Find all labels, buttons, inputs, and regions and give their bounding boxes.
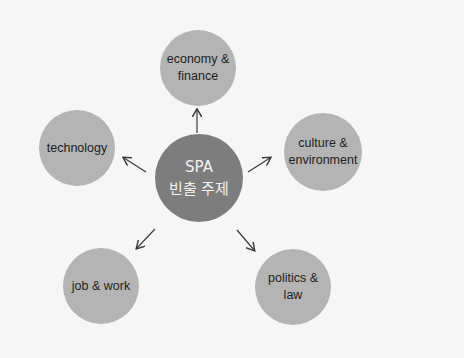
arrow-to-culture bbox=[248, 158, 270, 172]
node-label: finance bbox=[178, 68, 218, 85]
node-job-work: job & work bbox=[63, 248, 139, 324]
node-label: job & work bbox=[72, 278, 130, 295]
node-culture-environment: culture & environment bbox=[284, 113, 362, 191]
center-title: SPA bbox=[185, 156, 213, 178]
arrow-to-technology bbox=[124, 158, 146, 172]
arrow-to-politics bbox=[237, 230, 254, 250]
node-label: politics & bbox=[268, 270, 318, 287]
node-economy-finance: economy & finance bbox=[160, 30, 236, 106]
center-subtitle: 빈출 주제 bbox=[169, 178, 230, 200]
node-label: economy & bbox=[167, 51, 230, 68]
node-label: environment bbox=[289, 152, 358, 169]
node-label: technology bbox=[47, 140, 107, 157]
node-politics-law: politics & law bbox=[255, 249, 331, 325]
node-label: culture & bbox=[298, 135, 347, 152]
arrow-to-job bbox=[137, 229, 155, 248]
node-label: law bbox=[284, 287, 303, 304]
node-technology: technology bbox=[39, 110, 115, 186]
center-node-spa-topics: SPA 빈출 주제 bbox=[155, 134, 243, 222]
